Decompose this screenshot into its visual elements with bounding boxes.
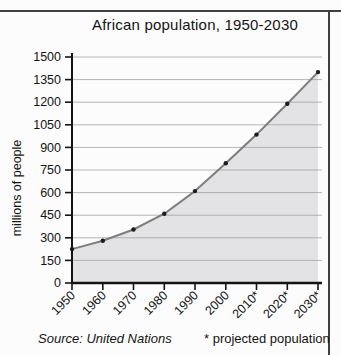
data-point bbox=[254, 132, 258, 136]
x-tick-label: 1990 bbox=[172, 288, 202, 318]
y-tick-label: 150 bbox=[40, 254, 61, 268]
data-point bbox=[193, 189, 197, 193]
y-tick-label: 450 bbox=[40, 208, 61, 222]
data-point bbox=[131, 227, 135, 231]
data-point bbox=[285, 102, 289, 106]
x-tick-label: 2010* bbox=[230, 288, 263, 321]
y-tick-label: 1050 bbox=[33, 118, 61, 132]
x-tick-label: 1970 bbox=[110, 288, 140, 318]
data-point bbox=[101, 239, 105, 243]
data-point bbox=[224, 161, 228, 165]
data-point bbox=[162, 212, 166, 216]
y-tick-label: 300 bbox=[40, 231, 61, 245]
y-tick-label: 900 bbox=[40, 141, 61, 155]
source-note: Source: United Nations bbox=[38, 331, 172, 346]
x-tick-label: 1960 bbox=[79, 288, 109, 318]
area-fill bbox=[72, 72, 318, 283]
population-area-chart: 0150300450600750900105012001350150019501… bbox=[0, 0, 341, 355]
y-tick-label: 1200 bbox=[33, 95, 61, 109]
y-tick-label: 600 bbox=[40, 186, 61, 200]
x-tick-label: 1950 bbox=[49, 288, 79, 318]
x-tick-label: 2000 bbox=[202, 288, 232, 318]
x-tick-label: 2020* bbox=[260, 288, 293, 321]
x-tick-label: 2030* bbox=[291, 288, 324, 321]
data-point bbox=[316, 70, 320, 74]
x-tick-label: 1980 bbox=[141, 288, 171, 318]
projection-note: * projected population bbox=[204, 331, 330, 346]
y-tick-label: 1500 bbox=[33, 50, 61, 64]
chart-panel: African population, 1950-2030 0150300450… bbox=[0, 0, 341, 355]
y-axis-title: millions of people bbox=[10, 140, 24, 237]
y-tick-label: 750 bbox=[40, 163, 61, 177]
y-tick-label: 1350 bbox=[33, 73, 61, 87]
y-tick-label: 0 bbox=[54, 276, 61, 290]
